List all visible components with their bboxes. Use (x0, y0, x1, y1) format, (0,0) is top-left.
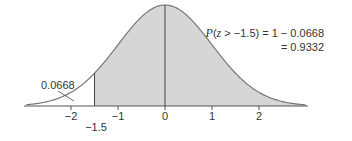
annotation-line-2: = 0.9332 (206, 41, 324, 54)
x-tick-label: 2 (256, 111, 262, 122)
annotation-line-1: P(P(z > −1.5) = 1 − 0.0668 (206, 27, 324, 41)
x-tick-label: −2 (65, 111, 78, 122)
x-tick-label: −1 (112, 111, 125, 122)
probability-annotation: P(P(z > −1.5) = 1 − 0.0668 = 0.9332 (206, 27, 324, 53)
left-tail-area-label: 0.0668 (41, 80, 75, 91)
x-tick-label: 0 (162, 111, 168, 122)
normal-distribution-chart (0, 0, 352, 141)
shaded-area (95, 5, 307, 106)
z-cutoff-label: −1.5 (85, 122, 107, 133)
x-tick-label: 1 (209, 111, 215, 122)
